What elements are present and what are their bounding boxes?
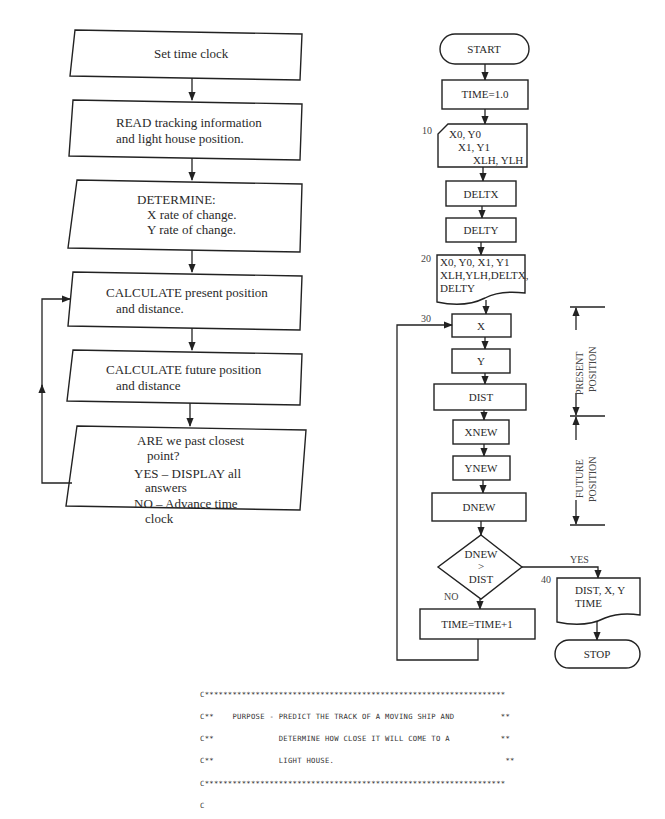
step-text: Y rate of change. [147, 222, 236, 237]
xnew-box: XNEW [453, 420, 509, 444]
svg-text:START: START [467, 43, 501, 55]
svg-text:DELTY: DELTY [463, 224, 498, 236]
init-time-box: TIME=1.0 [442, 80, 528, 109]
code-line: C** PURPOSE - PREDICT THE TRACK OF A MOV… [200, 713, 660, 720]
svg-text:X1, Y1: X1, Y1 [458, 141, 490, 153]
ynew-box: YNEW [453, 456, 510, 480]
future-position-bracket: FUTURE POSITION [570, 417, 605, 525]
decision-dnew-gt-dist: DNEW > DIST [438, 535, 522, 599]
svg-text:X0, Y0: X0, Y0 [449, 128, 481, 140]
step-text: ARE we past closest [137, 433, 245, 448]
step-text: X rate of change. [147, 207, 237, 222]
print-document: X0, Y0, X1, Y1 XLH,YLH,DELTX, DELTY [437, 255, 529, 304]
svg-text:FUTURE: FUTURE [574, 459, 585, 498]
start-terminal: START [440, 34, 529, 64]
svg-text:X: X [477, 320, 485, 332]
svg-text:DELTY: DELTY [440, 282, 475, 294]
right-flowchart: START TIME=1.0 10 X0, Y0 X1, Y1 XLH, YLH… [397, 34, 640, 668]
yes-label: YES [570, 554, 589, 565]
statement-label-10: 10 [422, 125, 432, 136]
step-read-tracking: READ tracking information and light hous… [69, 100, 302, 160]
svg-text:POSITION: POSITION [587, 456, 598, 502]
svg-text:YNEW: YNEW [465, 462, 499, 474]
dnew-box: DNEW [432, 493, 526, 521]
step-calculate-future: CALCULATE future position and distance [67, 350, 302, 405]
svg-text:DIST: DIST [469, 573, 494, 585]
step-text: DETERMINE: [137, 192, 216, 207]
svg-text:POSITION: POSITION [587, 346, 598, 392]
code-line: C** DETERMINE HOW CLOSE IT WILL COME TO … [200, 735, 660, 742]
output-document: DIST, X, Y TIME [557, 578, 640, 624]
present-position-bracket: PRESENT POSITION [570, 307, 605, 416]
code-line: C** LIGHT HOUSE. ** [200, 757, 660, 764]
statement-label-40: 40 [541, 574, 551, 585]
fortran-comment-listing: C***************************************… [200, 676, 660, 819]
step-text: Set time clock [154, 46, 229, 61]
svg-text:XLH,YLH,DELTX,: XLH,YLH,DELTX, [440, 269, 529, 281]
svg-text:XLH, YLH: XLH, YLH [473, 154, 523, 166]
step-text: NO – Advance time [134, 496, 238, 511]
code-line: C***************************************… [200, 780, 660, 787]
step-past-closest-point: ARE we past closest point? YES – DISPLAY… [66, 426, 306, 526]
x-box: X [452, 314, 511, 337]
svg-text:DNEW: DNEW [463, 501, 497, 513]
step-text: CALCULATE present position [106, 285, 268, 300]
code-line: C***************************************… [200, 691, 660, 698]
svg-text:DNEW: DNEW [465, 548, 499, 560]
svg-text:PRESENT: PRESENT [574, 352, 585, 395]
svg-text:STOP: STOP [584, 648, 611, 660]
increment-time-box: TIME=TIME+1 [420, 609, 535, 639]
svg-text:Y: Y [477, 355, 485, 367]
svg-text:DIST, X, Y: DIST, X, Y [575, 584, 625, 596]
step-text: and distance. [116, 301, 184, 316]
step-set-time-clock: Set time clock [70, 30, 302, 80]
delty-box: DELTY [446, 218, 516, 242]
step-text: and light house position. [116, 131, 244, 146]
step-text: point? [147, 448, 180, 463]
step-text: clock [145, 511, 174, 526]
deltx-box: DELTX [446, 181, 516, 206]
svg-text:XNEW: XNEW [465, 426, 499, 438]
statement-label-20: 20 [421, 253, 431, 264]
dist-box: DIST [434, 384, 526, 410]
code-line: C [200, 802, 660, 809]
svg-text:>: > [478, 560, 484, 572]
step-text: CALCULATE future position [106, 362, 262, 377]
stop-terminal: STOP [555, 640, 640, 668]
step-text: YES – DISPLAY all [134, 466, 241, 481]
no-label: NO [444, 591, 458, 602]
svg-text:TIME=TIME+1: TIME=TIME+1 [441, 618, 513, 630]
y-box: Y [452, 349, 510, 373]
svg-text:X0, Y0, X1, Y1: X0, Y0, X1, Y1 [440, 256, 509, 268]
read-input-card: X0, Y0 X1, Y1 XLH, YLH [438, 124, 527, 167]
step-determine: DETERMINE: X rate of change. Y rate of c… [68, 180, 302, 252]
svg-text:TIME: TIME [575, 597, 602, 609]
step-text: READ tracking information [116, 115, 262, 130]
step-text: and distance [116, 378, 181, 393]
svg-text:DELTX: DELTX [463, 188, 498, 200]
step-calculate-present: CALCULATE present position and distance. [68, 272, 302, 330]
svg-text:TIME=1.0: TIME=1.0 [462, 88, 509, 100]
left-flowchart: Set time clock READ tracking information… [42, 30, 306, 526]
statement-label-30: 30 [421, 313, 431, 324]
svg-text:DIST: DIST [469, 391, 494, 403]
step-text: answers [145, 480, 187, 495]
